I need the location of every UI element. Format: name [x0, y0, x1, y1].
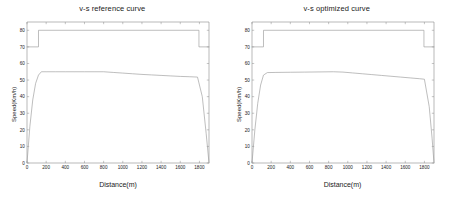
svg-text:10: 10: [20, 144, 26, 149]
axes-frame-reference: 0200400600800100012001400160018000102030…: [20, 22, 209, 170]
svg-text:0: 0: [247, 161, 250, 166]
svg-text:60: 60: [244, 61, 250, 66]
svg-text:20: 20: [244, 128, 250, 133]
svg-text:1000: 1000: [118, 165, 129, 170]
svg-text:800: 800: [324, 165, 332, 170]
panel-optimized: v-s optimized curve Speed(Km/h) Distance…: [225, 0, 449, 202]
svg-text:50: 50: [244, 78, 250, 83]
series-speed-limit: [252, 30, 434, 47]
svg-text:30: 30: [244, 111, 250, 116]
axes-frame-optimized: 0200400600800100012001400160018000102030…: [244, 22, 433, 170]
panel-reference: v-s reference curve Speed(Km/h) Distance…: [0, 0, 225, 202]
svg-text:30: 30: [20, 111, 26, 116]
series-speed-limit: [27, 30, 209, 47]
svg-text:40: 40: [20, 94, 26, 99]
svg-text:1200: 1200: [361, 165, 372, 170]
svg-text:1400: 1400: [380, 165, 391, 170]
svg-text:1400: 1400: [156, 165, 167, 170]
svg-text:80: 80: [244, 28, 250, 33]
svg-text:80: 80: [20, 28, 26, 33]
svg-text:60: 60: [20, 61, 26, 66]
plot-area-reference: 0200400600800100012001400160018000102030…: [0, 0, 225, 202]
svg-text:1000: 1000: [342, 165, 353, 170]
svg-text:400: 400: [61, 165, 69, 170]
svg-text:1600: 1600: [400, 165, 411, 170]
svg-text:1600: 1600: [175, 165, 186, 170]
svg-text:10: 10: [244, 144, 250, 149]
svg-text:20: 20: [20, 128, 26, 133]
series-optimized-speed: [252, 72, 434, 163]
svg-text:70: 70: [20, 45, 26, 50]
svg-text:0: 0: [250, 165, 253, 170]
svg-text:200: 200: [267, 165, 275, 170]
svg-text:400: 400: [286, 165, 294, 170]
svg-text:70: 70: [244, 45, 250, 50]
svg-text:0: 0: [26, 165, 29, 170]
figure-container: v-s reference curve Speed(Km/h) Distance…: [0, 0, 449, 202]
svg-text:1800: 1800: [194, 165, 205, 170]
svg-text:50: 50: [20, 78, 26, 83]
svg-text:600: 600: [305, 165, 313, 170]
svg-text:200: 200: [42, 165, 50, 170]
plot-area-optimized: 0200400600800100012001400160018000102030…: [225, 0, 449, 202]
svg-text:0: 0: [22, 161, 25, 166]
svg-text:1800: 1800: [419, 165, 430, 170]
svg-text:800: 800: [100, 165, 108, 170]
svg-text:600: 600: [81, 165, 89, 170]
svg-text:1200: 1200: [137, 165, 148, 170]
series-reference-speed: [27, 72, 209, 163]
svg-text:40: 40: [244, 94, 250, 99]
